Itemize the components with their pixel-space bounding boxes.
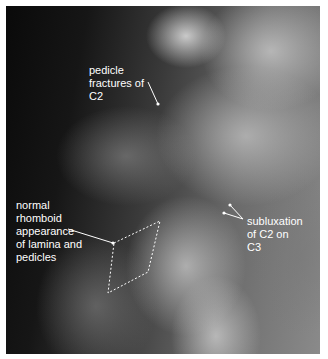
xray-image (6, 6, 320, 354)
rhomboid-outline (108, 221, 160, 293)
annotation-overlay (6, 6, 320, 354)
subluxation-pointer-tip-upper (228, 203, 231, 206)
label-rhomboid: normal rhomboid appearance of lamina and… (16, 199, 82, 264)
pedicle-fracture-pointer-tip (156, 102, 159, 105)
subluxation-pointer-tip-lower (222, 211, 225, 214)
label-pedicle-fractures: pedicle fractures of C2 (89, 64, 144, 103)
label-subluxation: subluxation of C2 on C3 (247, 215, 303, 254)
pedicle-fracture-pointer (148, 82, 158, 104)
